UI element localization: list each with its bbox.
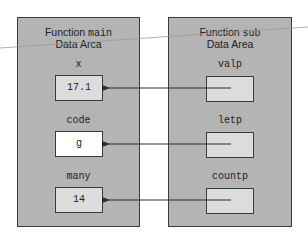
pointer-arrows xyxy=(0,0,308,238)
faint-scan-line xyxy=(0,27,308,48)
